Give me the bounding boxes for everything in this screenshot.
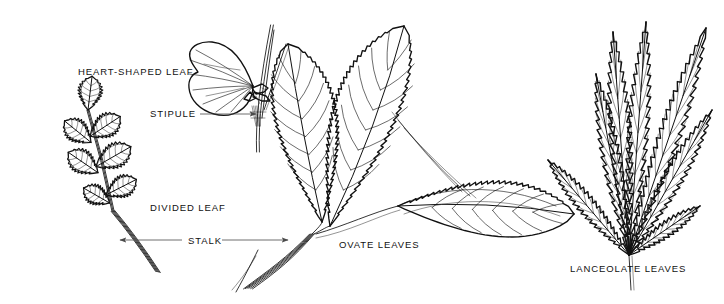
label-stalk: STALK bbox=[188, 235, 222, 246]
leaflet-midrib bbox=[88, 76, 92, 110]
leader-lines bbox=[120, 114, 288, 240]
ovate-margin bbox=[271, 44, 322, 222]
ovate-leaf bbox=[326, 26, 476, 226]
divided-leaflet bbox=[78, 76, 103, 110]
lanceolate-margin bbox=[629, 22, 651, 255]
cordate-vein bbox=[190, 60, 253, 86]
ovate-free-vein bbox=[398, 120, 470, 196]
label-divided-leaf: DIVIDED LEAF bbox=[150, 202, 226, 213]
cordate-blade bbox=[189, 42, 253, 116]
divided-leaflet bbox=[63, 118, 91, 143]
ovate-margin bbox=[398, 181, 574, 214]
cordate-veinlet bbox=[206, 88, 244, 96]
ovate-free-vein bbox=[404, 128, 476, 198]
label-lanceolate-leaves: LANCEOLATE LEAVES bbox=[570, 263, 686, 274]
ovate-margin bbox=[330, 26, 412, 226]
label-texts: HEART-SHAPED LEAFSTIPULEDIVIDED LEAFSTAL… bbox=[78, 66, 686, 274]
divided-leaflet bbox=[68, 148, 98, 174]
ovate-midrib bbox=[288, 44, 322, 222]
ovate-midrib bbox=[330, 26, 404, 226]
label-stipule: STIPULE bbox=[150, 108, 196, 119]
lanceolate-leaves-specimen bbox=[548, 22, 712, 290]
label-ovate-leaves: OVATE LEAVES bbox=[339, 239, 420, 250]
heart-shaped-leaf-specimen bbox=[189, 25, 289, 152]
ovate-edge-sweep bbox=[404, 202, 560, 217]
stipule-structure bbox=[244, 84, 270, 104]
ovate-stalk-line bbox=[244, 234, 310, 289]
divided-leaf-specimen bbox=[63, 76, 160, 272]
ovate-leaf bbox=[398, 181, 574, 237]
divided-leaf-stalk bbox=[111, 211, 155, 271]
botanical-diagram: HEART-SHAPED LEAFSTIPULEDIVIDED LEAFSTAL… bbox=[0, 0, 724, 304]
ovate-leaves-specimen bbox=[232, 26, 574, 292]
label-heart-shaped-leaf: HEART-SHAPED LEAF bbox=[78, 66, 193, 77]
cordate-vein bbox=[189, 74, 253, 86]
ovate-petiole bbox=[316, 206, 398, 234]
ovate-midrib bbox=[398, 204, 574, 214]
divided-leaflet bbox=[83, 184, 109, 205]
leaf-shapes-figure: HEART-SHAPED LEAFSTIPULEDIVIDED LEAFSTAL… bbox=[0, 0, 724, 304]
